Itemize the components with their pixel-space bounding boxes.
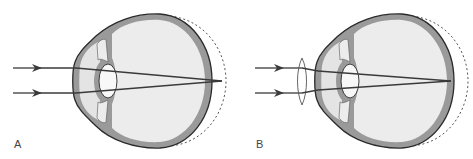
panel-label-b: B: [256, 138, 263, 150]
panel-label-a: A: [14, 138, 21, 150]
convex-lens-icon: [298, 58, 307, 105]
panel-b: [255, 14, 468, 148]
eye-a: [73, 14, 226, 148]
eye-diagram: [0, 0, 473, 159]
panel-a: [13, 14, 226, 148]
